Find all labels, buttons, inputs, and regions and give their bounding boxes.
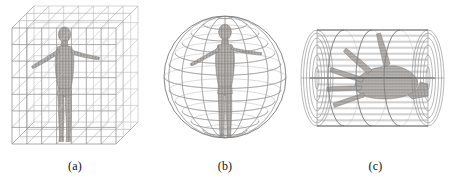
panel-a-artwork [0, 0, 150, 158]
human-body-mesh-b [190, 24, 261, 139]
cylinder-left-cap [301, 30, 333, 126]
sphere-meridians-front [169, 16, 282, 138]
panel-b-caption: (b) [150, 158, 300, 174]
panel-c-caption: (c) [300, 158, 451, 174]
figure-panel-b: (b) [150, 0, 300, 184]
panel-a-caption: (a) [0, 158, 150, 174]
figure-root: (a) [0, 0, 451, 184]
panel-c-artwork [300, 0, 451, 158]
figure-panel-a: (a) [0, 0, 150, 184]
box-bounding-volume-illustration [0, 0, 150, 158]
sphere-bounding-volume-illustration [150, 0, 300, 158]
figure-panel-c: (c) [300, 0, 451, 184]
cylinder-right-cap [412, 30, 444, 126]
cylinder-bounding-volume-illustration [300, 0, 451, 158]
panel-b-artwork [150, 0, 300, 158]
